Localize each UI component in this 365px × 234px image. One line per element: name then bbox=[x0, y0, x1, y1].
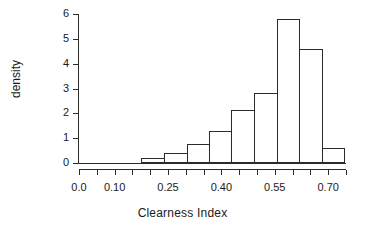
y-tick-label: 0 bbox=[49, 157, 69, 168]
y-tick-label: 6 bbox=[49, 8, 69, 19]
y-tick-label: 4 bbox=[49, 58, 69, 69]
y-tick bbox=[73, 14, 78, 15]
histogram-bar bbox=[277, 19, 300, 163]
x-tick-label: 0.55 bbox=[255, 181, 295, 193]
x-tick bbox=[328, 170, 329, 175]
histogram-bar bbox=[322, 148, 345, 163]
y-tick-label: 5 bbox=[49, 33, 69, 44]
x-tick bbox=[115, 170, 116, 175]
y-tick bbox=[73, 64, 78, 65]
x-tick bbox=[186, 170, 187, 175]
histogram-bar bbox=[141, 158, 164, 163]
x-tick-label: 0.10 bbox=[95, 181, 135, 193]
x-tick bbox=[275, 170, 276, 175]
x-tick-label: 0.25 bbox=[148, 181, 188, 193]
x-tick-label: 0.70 bbox=[308, 181, 348, 193]
histogram-bar bbox=[254, 93, 277, 163]
histogram-bar bbox=[299, 49, 323, 163]
x-tick bbox=[97, 170, 98, 175]
y-axis-title: density bbox=[9, 29, 23, 129]
bar-baseline bbox=[79, 163, 346, 164]
x-tick bbox=[239, 170, 240, 175]
x-tick bbox=[168, 170, 169, 175]
histogram-bar bbox=[187, 144, 210, 163]
x-tick bbox=[150, 170, 151, 175]
x-tick bbox=[221, 170, 222, 175]
histogram-bar bbox=[164, 153, 188, 163]
x-tick-label: 0.0 bbox=[59, 181, 99, 193]
x-tick bbox=[293, 170, 294, 175]
x-tick-label: 0.40 bbox=[201, 181, 241, 193]
y-tick bbox=[73, 138, 78, 139]
histogram-bar bbox=[209, 131, 232, 163]
y-tick bbox=[73, 113, 78, 114]
x-tick bbox=[257, 170, 258, 175]
plot-area bbox=[79, 14, 346, 163]
x-axis-title: Clearness Index bbox=[0, 206, 365, 220]
y-tick bbox=[73, 89, 78, 90]
y-tick bbox=[73, 39, 78, 40]
x-tick bbox=[310, 170, 311, 175]
histogram-figure: 0123456 0.00.100.250.400.550.70 Clearnes… bbox=[0, 0, 365, 234]
y-tick bbox=[73, 163, 78, 164]
y-tick-label: 2 bbox=[49, 107, 69, 118]
y-tick-label: 1 bbox=[49, 132, 69, 143]
x-tick bbox=[346, 170, 347, 175]
x-tick bbox=[79, 170, 80, 175]
x-axis-line bbox=[79, 169, 346, 170]
x-tick bbox=[204, 170, 205, 175]
histogram-bar bbox=[231, 110, 255, 163]
x-tick bbox=[132, 170, 133, 175]
y-tick-label: 3 bbox=[49, 83, 69, 94]
